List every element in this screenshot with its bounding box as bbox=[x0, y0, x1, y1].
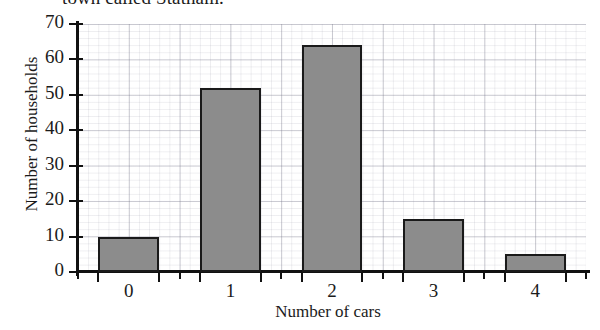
x-axis-tick bbox=[260, 271, 262, 282]
y-axis-tick bbox=[69, 236, 83, 238]
bar-chart: Number of households Number of cars 0102… bbox=[0, 14, 600, 330]
x-axis-minor-tick bbox=[382, 271, 384, 279]
x-axis-tick-label: 3 bbox=[414, 280, 454, 302]
x-axis-title: Number of cars bbox=[78, 302, 578, 322]
x-axis-tick bbox=[565, 271, 567, 282]
bar bbox=[200, 88, 261, 272]
y-axis-tick bbox=[69, 23, 83, 25]
y-axis-tick bbox=[69, 94, 83, 96]
x-axis-tick bbox=[504, 271, 506, 282]
x-axis-minor-tick bbox=[77, 271, 79, 279]
caption-text: town called Statham. bbox=[62, 0, 224, 9]
y-axis-tick-label: 50 bbox=[6, 82, 64, 104]
caption-strip: town called Statham. bbox=[0, 0, 600, 13]
x-axis-tick bbox=[402, 271, 404, 282]
y-axis-tick bbox=[69, 271, 83, 273]
x-axis-tick bbox=[463, 271, 465, 282]
y-axis-tick bbox=[69, 200, 83, 202]
bar bbox=[403, 219, 464, 272]
y-axis-tick-label: 70 bbox=[6, 11, 64, 33]
bar bbox=[302, 45, 363, 272]
y-axis-tick-label: 10 bbox=[6, 224, 64, 246]
x-axis-minor-tick bbox=[280, 271, 282, 279]
y-axis-tick bbox=[69, 129, 83, 131]
y-axis-tick bbox=[69, 58, 83, 60]
x-axis-tick bbox=[158, 271, 160, 282]
x-axis-tick bbox=[97, 271, 99, 282]
bar bbox=[98, 237, 159, 272]
x-axis-tick bbox=[301, 271, 303, 282]
y-axis-tick-label: 60 bbox=[6, 46, 64, 68]
chart-page: town called Statham. Number of household… bbox=[0, 0, 600, 330]
x-axis-tick-label: 1 bbox=[210, 280, 250, 302]
x-axis-tick bbox=[199, 271, 201, 282]
y-axis-tick-label: 30 bbox=[6, 153, 64, 175]
y-axis-tick-label: 0 bbox=[6, 259, 64, 281]
x-axis-minor-tick bbox=[585, 271, 587, 279]
x-axis-tick-label: 2 bbox=[312, 280, 352, 302]
x-axis-tick-label: 4 bbox=[515, 280, 555, 302]
x-axis-minor-tick bbox=[179, 271, 181, 279]
y-axis-tick bbox=[69, 165, 83, 167]
y-axis-tick-label: 20 bbox=[6, 188, 64, 210]
x-axis-tick-label: 0 bbox=[109, 280, 149, 302]
bar bbox=[505, 254, 566, 272]
y-axis-tick-label: 40 bbox=[6, 117, 64, 139]
x-axis-tick bbox=[361, 271, 363, 282]
x-axis-minor-tick bbox=[483, 271, 485, 279]
